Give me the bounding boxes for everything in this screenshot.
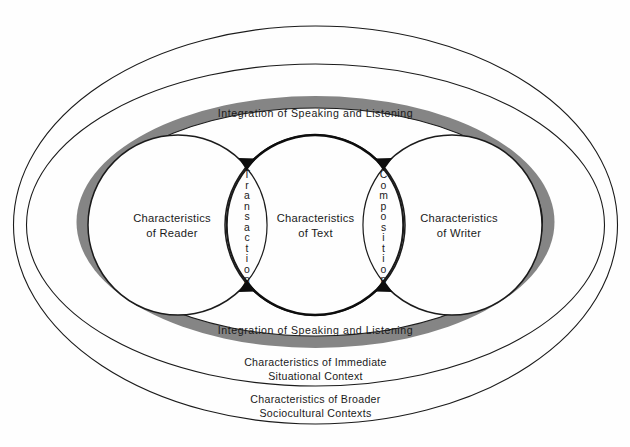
lens-transaction-letter-7: t: [246, 243, 249, 254]
ring-broader-context-label-line1: Characteristics of Broader: [250, 393, 380, 405]
band-bottom-label: Integration of Speaking and Listening: [218, 324, 413, 336]
circle-reader-label-line1: Characteristics: [133, 212, 211, 224]
lens-composition-letter-1: o: [381, 180, 387, 191]
lens-transaction-letter-2: a: [244, 190, 250, 201]
lens-transaction-letter-6: c: [244, 232, 249, 243]
lens-composition-letter-3: p: [381, 201, 387, 212]
circle-writer-label-line1: Characteristics: [420, 212, 498, 224]
lens-composition-letter-6: i: [382, 232, 384, 243]
lens-transaction-letter-0: T: [244, 169, 251, 180]
lens-transaction-letter-10: n: [244, 274, 250, 285]
circle-reader-label-line2: of Reader: [146, 227, 197, 239]
ring-immediate-context-label-line2: Situational Context: [268, 370, 363, 382]
lens-transaction-letter-9: o: [244, 264, 250, 275]
lens-composition-letter-9: o: [381, 264, 387, 275]
lens-transaction-letter-4: s: [244, 211, 249, 222]
lens-composition-letter-10: n: [381, 274, 387, 285]
lens-transaction-letter-5: a: [244, 222, 250, 233]
lens-transaction-letter-8: i: [246, 253, 248, 264]
circle-writer-label-line2: of Writer: [437, 227, 481, 239]
ring-immediate-context-label-line1: Characteristics of Immediate: [244, 356, 387, 368]
diagram-canvas: Integration of Speaking and Listening In…: [0, 0, 630, 447]
lens-composition-letter-2: m: [379, 190, 388, 201]
circle-text-label-line1: Characteristics: [277, 212, 355, 224]
lens-composition-letter-7: t: [382, 243, 385, 254]
lens-composition-letter-5: s: [381, 222, 386, 233]
lens-composition-letter-4: o: [381, 211, 387, 222]
lens-composition-letter-0: C: [380, 169, 388, 180]
reading-writing-model-diagram: Integration of Speaking and Listening In…: [0, 0, 630, 447]
circle-text-label-line2: of Text: [298, 227, 333, 239]
band-top-label: Integration of Speaking and Listening: [218, 107, 413, 119]
lens-transaction-letter-1: r: [245, 180, 249, 191]
ring-broader-context-label-line2: Sociocultural Contexts: [260, 407, 372, 419]
lens-composition-letter-8: i: [382, 253, 384, 264]
lens-transaction-letter-3: n: [244, 201, 250, 212]
